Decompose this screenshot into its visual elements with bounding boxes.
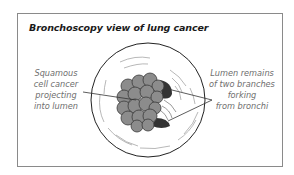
- bronchoscopy-illustration: [0, 0, 294, 175]
